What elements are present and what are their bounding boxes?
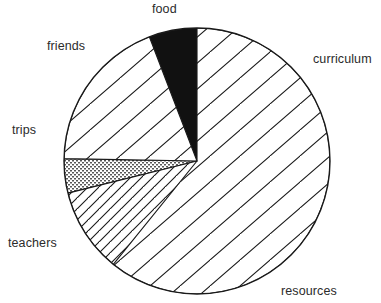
- slice-label-teachers: teachers: [8, 237, 57, 250]
- pie-chart: food curriculum friends trips teachers r…: [0, 0, 381, 303]
- slice-label-trips: trips: [12, 124, 36, 137]
- slice-label-resources: resources: [281, 285, 337, 298]
- slice-label-food: food: [152, 3, 177, 16]
- slice-label-curriculum: curriculum: [313, 53, 372, 66]
- slice-label-friends: friends: [47, 40, 85, 53]
